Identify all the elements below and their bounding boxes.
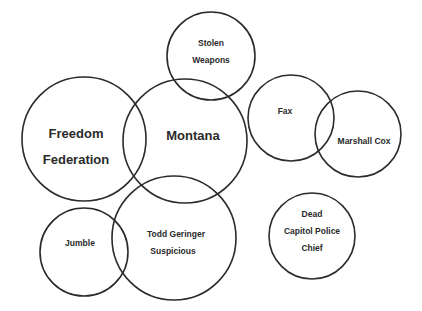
label-line: Federation <box>43 147 109 173</box>
label-line: Todd Geringer <box>147 226 205 243</box>
label-line: Capitol Police <box>284 223 340 240</box>
label-stolen-weapons: Stolen Weapons <box>192 35 230 69</box>
label-marshall-cox: Marshall Cox <box>338 133 391 150</box>
label-line: Freedom <box>43 121 109 147</box>
label-line: Montana <box>166 123 219 149</box>
label-jumble: Jumble <box>65 235 95 252</box>
label-montana: Montana <box>166 123 219 149</box>
label-line: Fax <box>278 103 293 120</box>
label-todd-geringer: Todd Geringer Suspicious <box>147 226 205 260</box>
label-line: Jumble <box>65 235 95 252</box>
label-dead-capitol-police-chief: Dead Capitol Police Chief <box>284 206 340 257</box>
label-line: Chief <box>284 240 340 257</box>
label-line: Stolen <box>192 35 230 52</box>
label-line: Marshall Cox <box>338 133 391 150</box>
label-line: Dead <box>284 206 340 223</box>
label-line: Weapons <box>192 52 230 69</box>
label-fax: Fax <box>278 103 293 120</box>
label-freedom-federation: Freedom Federation <box>43 121 109 173</box>
label-line: Suspicious <box>147 243 205 260</box>
